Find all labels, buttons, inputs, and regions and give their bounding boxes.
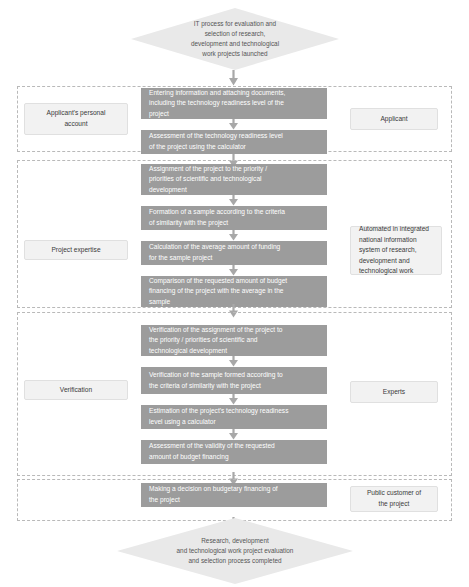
process-step-comparison-budget-financing[interactable]: Comparison of the requested amount of bu… <box>141 276 327 307</box>
end-terminator-label: Research, development and technological … <box>135 536 335 566</box>
actor-label-applicant: Applicant <box>350 108 438 130</box>
connector-arrow-start <box>229 70 238 86</box>
end-terminator: Research, development and technological … <box>117 518 353 584</box>
stage-label-project-expertise: Project expertise <box>24 240 128 260</box>
connector-arrow-2-2 <box>229 230 238 241</box>
connector-arrow-3-2 <box>229 394 238 405</box>
process-step-verification-sample-criteria[interactable]: Verification of the sample formed accord… <box>141 367 327 394</box>
connector-arrow-2-1 <box>229 195 238 206</box>
process-step-assessment-technology-readiness[interactable]: Assessment of the technology readiness l… <box>141 130 327 154</box>
start-terminator-label: IT process for evaluation and selection … <box>149 19 321 59</box>
process-step-formation-of-sample[interactable]: Formation of a sample according to the c… <box>141 206 327 230</box>
start-terminator: IT process for evaluation and selection … <box>131 8 339 70</box>
flowchart-canvas: IT process for evaluation and selection … <box>0 0 469 587</box>
connector-arrow-2-3 <box>229 265 238 276</box>
process-step-estimation-technology-readiness[interactable]: Estimation of the project's technology r… <box>141 405 327 429</box>
actor-label-public-customer: Public customer of the project <box>350 486 438 512</box>
connector-arrow-3-3 <box>229 429 238 440</box>
process-step-verification-assignment-priority[interactable]: Verification of the assignment of the pr… <box>141 325 327 356</box>
process-step-calculation-average-funding[interactable]: Calculation of the average amount of fun… <box>141 241 327 265</box>
stage-label-verification: Verification <box>24 380 128 400</box>
stage-label-applicants-personal-account: Applicant's personal account <box>24 103 128 135</box>
actor-label-experts: Experts <box>350 381 438 403</box>
process-step-decision-budgetary-financing[interactable]: Making a decision on budgetary financing… <box>141 483 327 507</box>
connector-arrow-1-1 <box>229 119 238 130</box>
actor-label-automated-system: Automated in integrated national informa… <box>350 226 442 275</box>
connector-arrow-3-1 <box>229 356 238 367</box>
process-step-entering-information[interactable]: Entering information and attaching docum… <box>141 88 327 119</box>
process-step-assessment-validity-budget[interactable]: Assessment of the validity of the reques… <box>141 440 327 464</box>
process-step-assignment-to-priority[interactable]: Assignment of the project to the priorit… <box>141 164 327 195</box>
